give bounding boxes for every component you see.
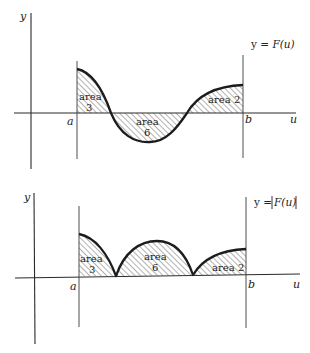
signed-function-plot: y u a b y = F(u) area 3 area 6 area 2 [0, 0, 310, 176]
bound-label-b: b [245, 113, 252, 126]
svg-text:y =: y = [253, 196, 272, 208]
area-6-word: area [136, 116, 159, 127]
y-axis [34, 193, 35, 344]
x-axis-label: u [290, 113, 297, 126]
area-6-value: 6 [152, 262, 158, 273]
area-2-value: 2 [238, 262, 244, 273]
area-3-value: 3 [89, 264, 95, 275]
figure-absolute-function: y u a b y = F(u) area 3 area 6 area 2 [0, 176, 310, 353]
area-6-word: area [144, 251, 167, 262]
area-3-word: area [80, 253, 103, 264]
bound-label-a: a [67, 115, 74, 128]
equation-label: y = F(u) [250, 38, 295, 50]
area-2-word: area [208, 94, 231, 105]
area-3-word: area [79, 91, 102, 102]
x-axis-label: u [293, 278, 300, 291]
y-axis-label: y [23, 191, 31, 204]
figure-signed-function: y u a b y = F(u) area 3 area 6 area 2 [0, 0, 310, 176]
area-2-word: area [212, 262, 235, 273]
absolute-function-plot: y u a b y = F(u) area 3 area 6 area 2 [0, 176, 310, 353]
y-axis-label: y [19, 10, 27, 23]
svg-text:F(u): F(u) [273, 196, 296, 208]
bound-label-a: a [70, 280, 77, 293]
bound-label-b: b [248, 278, 255, 291]
equation-label: y = F(u) [253, 196, 296, 209]
area-3-value: 3 [86, 102, 92, 113]
area-6-value: 6 [144, 127, 150, 138]
area-2-value: 2 [234, 94, 240, 105]
